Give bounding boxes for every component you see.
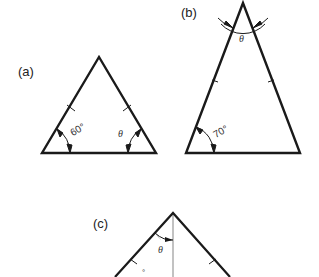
triangle-a (42, 57, 156, 153)
triangle-b (186, 3, 300, 153)
diagram-canvas (0, 0, 319, 277)
triangle-c (115, 213, 230, 277)
angle-c-lower: ° (142, 268, 145, 277)
angle-a-base-right: θ (118, 128, 123, 139)
figure-label-b: (b) (181, 5, 197, 20)
angle-b-apex: θ (239, 33, 244, 44)
figure-label-a: (a) (18, 64, 34, 79)
figure-label-c: (c) (93, 216, 108, 231)
angle-c-apex: θ (158, 244, 163, 255)
